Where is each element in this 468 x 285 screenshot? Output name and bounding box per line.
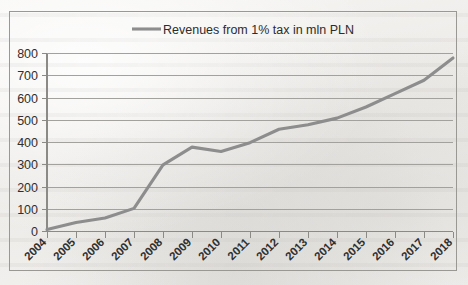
x-axis-label-2011: 2011 xyxy=(225,236,252,263)
x-axis-label-2015: 2015 xyxy=(341,236,368,263)
line-chart: 800 700 600 500 400 300 200 100 0 2004 2… xyxy=(10,12,456,270)
y-axis-label-200: 200 xyxy=(17,181,38,195)
x-axis-label-2016: 2016 xyxy=(370,236,397,263)
x-axis-label-2017: 2017 xyxy=(399,236,426,263)
x-axis-label-2007: 2007 xyxy=(109,236,136,263)
x-axis-label-2014: 2014 xyxy=(312,236,339,263)
x-axis-label-2005: 2005 xyxy=(51,236,78,263)
x-axis-label-2013: 2013 xyxy=(283,236,310,263)
x-axis-ticks xyxy=(47,232,453,238)
x-axis-label-2012: 2012 xyxy=(254,236,281,263)
x-axis-tick-labels: 2004 2005 2006 2007 2008 2009 2010 2011 … xyxy=(22,236,455,263)
x-axis-label-2008: 2008 xyxy=(138,236,165,263)
y-axis-label-100: 100 xyxy=(17,203,38,217)
y-axis-tick-labels: 800 700 600 500 400 300 200 100 0 xyxy=(17,47,38,239)
x-axis-label-2006: 2006 xyxy=(80,236,107,263)
series-line-revenues xyxy=(47,58,453,230)
y-axis-label-800: 800 xyxy=(17,47,38,61)
y-axis-label-700: 700 xyxy=(17,69,38,83)
y-axis-label-600: 600 xyxy=(17,92,38,106)
y-axis-label-0: 0 xyxy=(31,225,38,239)
chart-frame-border: 800 700 600 500 400 300 200 100 0 2004 2… xyxy=(9,11,457,271)
y-axis-ticks xyxy=(42,54,47,232)
y-axis-label-400: 400 xyxy=(17,136,38,150)
x-axis-label-2004: 2004 xyxy=(22,236,49,263)
y-axis-label-500: 500 xyxy=(17,114,38,128)
x-axis-label-2010: 2010 xyxy=(196,236,223,263)
x-axis-label-2009: 2009 xyxy=(167,236,194,263)
legend-label-revenues: Revenues from 1% tax in mln PLN xyxy=(163,23,354,37)
chart-legend: Revenues from 1% tax in mln PLN xyxy=(132,23,354,37)
x-axis-label-2018: 2018 xyxy=(428,236,455,263)
gridlines xyxy=(47,54,453,210)
chart-screenshot: 800 700 600 500 400 300 200 100 0 2004 2… xyxy=(0,0,468,285)
y-axis-label-300: 300 xyxy=(17,158,38,172)
